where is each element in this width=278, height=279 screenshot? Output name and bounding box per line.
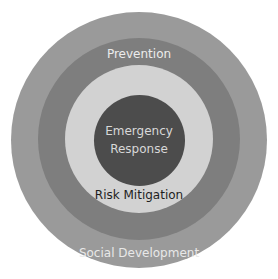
emergency-response-circle xyxy=(94,95,185,186)
emergency-response-label-line1: Emergency xyxy=(0,124,278,138)
social-development-label: Social Development xyxy=(0,246,278,260)
risk-mitigation-label: Risk Mitigation xyxy=(0,188,278,202)
emergency-response-label-line2: Response xyxy=(0,142,278,156)
prevention-label: Prevention xyxy=(0,47,278,61)
